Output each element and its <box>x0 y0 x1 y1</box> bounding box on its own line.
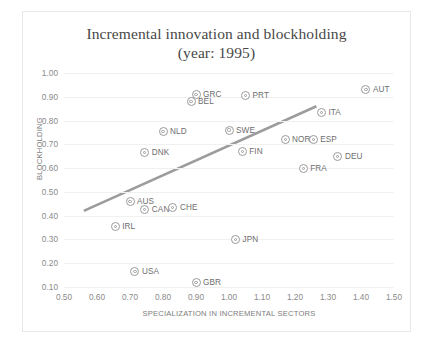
data-point-label: CAN <box>152 205 170 214</box>
data-point-marker <box>333 152 342 161</box>
data-point-label: FIN <box>249 147 263 156</box>
y-tick-label: 0.50 <box>42 187 58 197</box>
y-gridline: 0.80 <box>64 121 394 122</box>
data-point-label: ITA <box>328 108 340 117</box>
data-point-label: IRL <box>122 222 135 231</box>
y-tick-label: 0.30 <box>42 234 58 244</box>
plot-area: 0.100.200.300.400.500.600.700.800.901.00… <box>64 73 394 287</box>
data-point-marker <box>317 108 326 117</box>
y-gridline: 0.50 <box>64 192 394 193</box>
data-point-label: NLD <box>170 127 187 136</box>
y-tick-label: 0.10 <box>42 282 58 292</box>
data-point-marker <box>126 197 135 206</box>
data-point-marker <box>140 148 149 157</box>
y-tick-label: 0.20 <box>42 258 58 268</box>
y-gridline: 0.70 <box>64 144 394 145</box>
y-tick-label: 1.00 <box>42 68 58 78</box>
data-point-marker <box>309 135 318 144</box>
x-tick-label: 1.20 <box>287 292 303 302</box>
x-tick-label: 0.50 <box>56 292 72 302</box>
data-point-label: GBR <box>203 278 221 287</box>
data-point-label: JPN <box>243 235 259 244</box>
data-point-label: DEU <box>345 152 363 161</box>
chart-title-line-1: Incremental innovation and blockholding <box>23 24 410 43</box>
data-point-marker <box>140 205 149 214</box>
y-gridline: 0.20 <box>64 263 394 264</box>
data-point-marker <box>361 85 370 94</box>
x-tick-label: 1.50 <box>386 292 402 302</box>
y-gridline: 1.00 <box>64 73 394 74</box>
data-point-label: AUT <box>373 85 390 94</box>
data-point-marker <box>281 135 290 144</box>
x-tick-label: 1.00 <box>221 292 237 302</box>
data-point-marker <box>241 91 250 100</box>
x-tick-label: 0.80 <box>155 292 171 302</box>
y-tick-label: 0.60 <box>42 163 58 173</box>
data-point-label: CHE <box>180 203 198 212</box>
x-tick-label: 1.30 <box>320 292 336 302</box>
x-tick-label: 1.40 <box>353 292 369 302</box>
y-gridline: 0.40 <box>64 216 394 217</box>
x-tick-label: 0.70 <box>122 292 138 302</box>
data-point-label: FRA <box>310 164 327 173</box>
data-point-marker <box>130 267 139 276</box>
data-point-marker <box>192 278 201 287</box>
data-point-marker <box>238 147 247 156</box>
y-tick-label: 0.70 <box>42 139 58 149</box>
data-point-label: ESP <box>320 135 337 144</box>
data-point-label: NOR <box>292 135 311 144</box>
y-tick-label: 0.90 <box>42 92 58 102</box>
data-point-label: DNK <box>152 148 170 157</box>
data-point-marker <box>168 203 177 212</box>
chart-title: Incremental innovation and blockholding … <box>23 24 410 62</box>
chart-figure: Incremental innovation and blockholding … <box>22 11 411 332</box>
data-point-marker <box>299 164 308 173</box>
data-point-label: USA <box>142 267 159 276</box>
data-point-label: GRC <box>203 90 222 99</box>
data-point-marker <box>111 222 120 231</box>
data-point-marker <box>231 235 240 244</box>
data-point-marker <box>225 126 234 135</box>
data-point-label: SWE <box>236 126 255 135</box>
x-tick-label: 0.60 <box>89 292 105 302</box>
data-point-marker <box>192 90 201 99</box>
x-axis-title: SPECIALIZATION IN INCREMENTAL SECTORS <box>64 309 394 318</box>
y-gridline: 0.60 <box>64 168 394 169</box>
y-tick-label: 0.80 <box>42 116 58 126</box>
data-point-marker <box>159 127 168 136</box>
chart-title-line-2: (year: 1995) <box>23 43 410 62</box>
y-gridline: 0.10 <box>64 287 394 288</box>
trendline <box>64 73 394 287</box>
x-tick-label: 1.10 <box>254 292 270 302</box>
data-point-label: PRT <box>253 91 270 100</box>
x-tick-label: 0.90 <box>188 292 204 302</box>
y-gridline: 0.90 <box>64 97 394 98</box>
y-tick-label: 0.40 <box>42 211 58 221</box>
y-gridline: 0.30 <box>64 239 394 240</box>
